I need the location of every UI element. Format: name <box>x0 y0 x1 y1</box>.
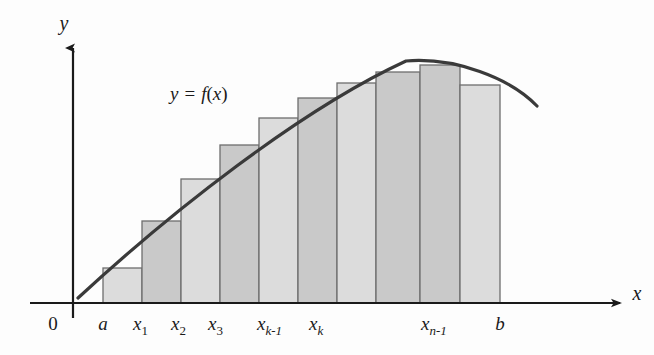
bar-2 <box>142 221 181 303</box>
bar-7 <box>337 83 376 303</box>
bar-9 <box>420 65 460 303</box>
bar-6 <box>298 98 337 303</box>
curve-label-y: y <box>168 83 179 104</box>
y-axis-label: y <box>58 12 69 35</box>
bar-8 <box>376 72 420 303</box>
x-axis-label: x <box>632 282 642 304</box>
tick-label-b: b <box>495 313 505 334</box>
figure-container: y x y=f(x) 0 a x1 x2 x3 xk-1 <box>0 0 654 355</box>
tick-label-a: a <box>98 313 108 334</box>
curve-label-equals: = <box>184 83 195 104</box>
curve-label-close-paren: ) <box>221 83 227 105</box>
bar-10 <box>460 85 500 303</box>
bar-1 <box>103 268 142 303</box>
riemann-sum-figure: y x y=f(x) 0 a x1 x2 x3 xk-1 <box>0 0 654 355</box>
bar-3 <box>181 179 220 303</box>
tick-label-origin: 0 <box>48 313 58 334</box>
bar-4 <box>220 145 259 303</box>
